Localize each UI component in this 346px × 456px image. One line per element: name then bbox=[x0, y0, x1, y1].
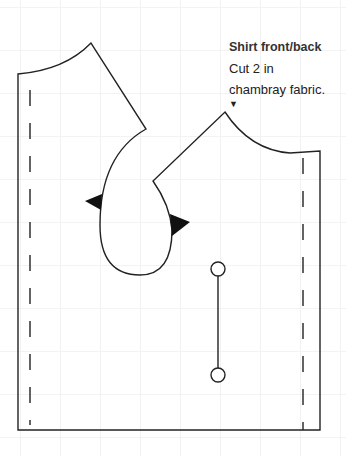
notch-right-icon bbox=[170, 214, 190, 236]
button-mark-bottom bbox=[211, 368, 225, 382]
cut-instruction: Cut 2 in bbox=[229, 58, 325, 79]
arrow-down-icon: ▼ bbox=[229, 99, 325, 109]
pattern-label: Shirt front/back Cut 2 in chambray fabri… bbox=[229, 37, 325, 109]
notch-left-icon bbox=[85, 194, 102, 210]
button-mark-top bbox=[211, 262, 225, 276]
fabric-instruction: chambray fabric. bbox=[229, 79, 325, 100]
pattern-title: Shirt front/back bbox=[229, 37, 325, 58]
